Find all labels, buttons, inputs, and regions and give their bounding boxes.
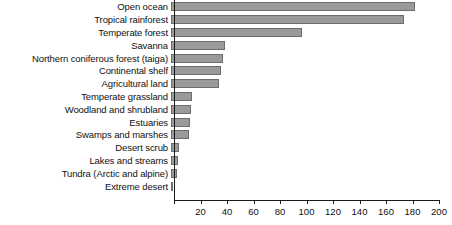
bar-track	[171, 142, 446, 155]
bar-category-label: Open ocean	[0, 2, 171, 12]
bar-rows: Open oceanTropical rainforestTemperate f…	[0, 1, 446, 193]
bar-category-label: Temperate grassland	[0, 92, 171, 102]
bar-row: Temperate grassland	[0, 91, 446, 104]
bar-row: Desert scrub	[0, 142, 446, 155]
bar	[171, 15, 404, 24]
x-tick	[201, 200, 202, 204]
bar-category-label: Woodland and shrubland	[0, 105, 171, 115]
x-tick	[307, 200, 308, 204]
bar-row: Tundra (Arctic and alpine)	[0, 167, 446, 180]
bar-row: Tropical rainforest	[0, 14, 446, 27]
x-tick-label: 160	[371, 206, 401, 217]
bar-track	[171, 1, 446, 14]
bar-category-label: Lakes and streams	[0, 156, 171, 166]
bar	[171, 54, 223, 63]
bar-category-label: Northern coniferous forest (taiga)	[0, 54, 171, 64]
x-tick-label: 140	[345, 206, 375, 217]
x-tick-label: 40	[212, 206, 242, 217]
x-tick	[413, 200, 414, 204]
bar-category-label: Agricultural land	[0, 79, 171, 89]
bar-track	[171, 103, 446, 116]
bar-track	[171, 91, 446, 104]
bar-track	[171, 78, 446, 91]
bar-row: Estuaries	[0, 116, 446, 129]
x-tick	[254, 200, 255, 204]
bar-category-label: Desert scrub	[0, 143, 171, 153]
bar-row: Agricultural land	[0, 78, 446, 91]
x-tick	[333, 200, 334, 204]
bar	[171, 41, 225, 50]
bar-track	[171, 129, 446, 142]
bar-category-label: Savanna	[0, 41, 171, 51]
x-tick-label: 60	[239, 206, 269, 217]
bar-track	[171, 155, 446, 168]
bar	[171, 66, 221, 75]
x-tick	[174, 200, 175, 204]
bar-category-label: Extreme desert	[0, 182, 171, 192]
x-tick	[227, 200, 228, 204]
bar-category-label: Tropical rainforest	[0, 15, 171, 25]
bar-row: Lakes and streams	[0, 155, 446, 168]
bar-track	[171, 180, 446, 193]
bar-row: Woodland and shrubland	[0, 103, 446, 116]
bar-track	[171, 14, 446, 27]
bar	[171, 182, 173, 191]
bar-category-label: Temperate forest	[0, 28, 171, 38]
bar	[171, 28, 302, 37]
bar-track	[171, 65, 446, 78]
bar-category-label: Estuaries	[0, 118, 171, 128]
x-tick-label: 120	[318, 206, 348, 217]
x-tick-label: 20	[186, 206, 216, 217]
x-tick	[386, 200, 387, 204]
bar-track	[171, 27, 446, 40]
bar-category-label: Swamps and marshes	[0, 130, 171, 140]
bar-row: Extreme desert	[0, 180, 446, 193]
bar-row: Continental shelf	[0, 65, 446, 78]
bar-track	[171, 116, 446, 129]
bar-row: Swamps and marshes	[0, 129, 446, 142]
bar-category-label: Continental shelf	[0, 66, 171, 76]
y-axis-line	[174, 0, 175, 200]
x-tick-label: 80	[265, 206, 295, 217]
bar	[171, 2, 415, 11]
x-tick-label: 180	[398, 206, 428, 217]
bar-row: Savanna	[0, 39, 446, 52]
x-tick-label: 200	[424, 206, 452, 217]
bar	[171, 79, 219, 88]
x-tick	[280, 200, 281, 204]
bar-row: Open ocean	[0, 1, 446, 14]
bar-row: Northern coniferous forest (taiga)	[0, 52, 446, 65]
bar-track	[171, 39, 446, 52]
bar-track	[171, 52, 446, 65]
bar-category-label: Tundra (Arctic and alpine)	[0, 169, 171, 179]
bar-track	[171, 167, 446, 180]
x-tick	[360, 200, 361, 204]
x-tick-label: 100	[292, 206, 322, 217]
bar-row: Temperate forest	[0, 27, 446, 40]
x-tick	[439, 200, 440, 204]
